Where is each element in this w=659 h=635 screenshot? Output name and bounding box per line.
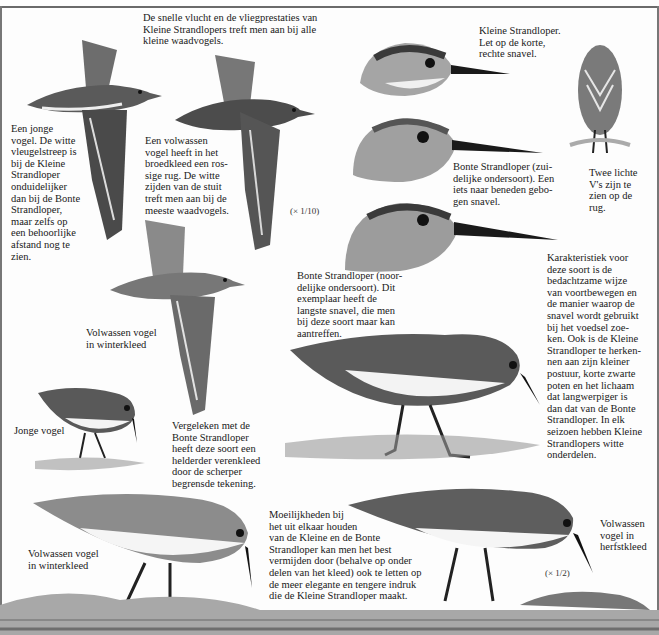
caption-flight-intro: De snelle vlucht en de vliegprestaties v… bbox=[143, 12, 317, 47]
caption-compared: Vergeleken met de Bonte Strandloper heef… bbox=[172, 420, 260, 490]
caption-adult-autumn-standing: Volwassen vogel in herfstkleed bbox=[600, 518, 647, 553]
standing-adult-breeding-illustration bbox=[285, 325, 545, 465]
back-view-bird-illustration bbox=[565, 35, 635, 155]
caption-head-dunlin-south: Bonte Strandloper (zui- delijke ondersoo… bbox=[453, 161, 554, 207]
caption-head-little-stint: Kleine Strandloper. Let op de korte, rec… bbox=[479, 25, 561, 60]
frame-border-left bbox=[0, 6, 2, 635]
caption-juvenile-standing: Jonge vogel bbox=[14, 425, 64, 437]
caption-juvenile-flight: Een jonge vogel. De witte vleugelstreep … bbox=[11, 123, 80, 262]
plate-page: De snelle vlucht en de vliegprestaties v… bbox=[0, 0, 659, 635]
caption-difficulties: Moeilijkheden bij het uit elkaar houden … bbox=[269, 509, 422, 602]
caption-adult-breeding-flight: Een volwassen vogel heeft in het broedkl… bbox=[145, 135, 229, 216]
scale-label-flight: (× 1/10) bbox=[290, 206, 319, 216]
caption-characteristic: Karakteristiek voor deze soort is de bed… bbox=[547, 252, 642, 461]
caption-back-view: Twee lichte V's zijn te zien op de rug. bbox=[589, 167, 638, 213]
caption-adult-winter-flight: Volwassen vogel in winterkleed bbox=[86, 327, 157, 350]
caption-adult-winter-standing: Volwassen vogel in winterkleed bbox=[28, 548, 99, 571]
caption-head-dunlin-north: Bonte Strandloper (noor- delijke onderso… bbox=[297, 270, 402, 340]
frame-border-top bbox=[0, 6, 659, 8]
scale-label-standing: (× 1/2) bbox=[545, 568, 570, 578]
